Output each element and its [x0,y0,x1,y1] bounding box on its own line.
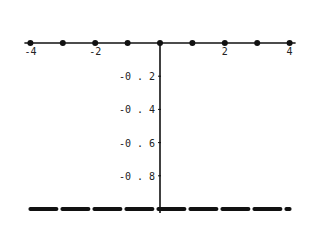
tick-labels: -0 . 2-0 . 4-0 . 6-0 . 8-4-224 [24,46,292,182]
y-tick-label: -0 . 8 [119,171,155,182]
chart-canvas: -0 . 2-0 . 4-0 . 6-0 . 8-4-224 [0,0,319,228]
x-tick-label: 2 [222,46,228,57]
data-point [157,40,163,46]
data-point [60,40,66,46]
x-tick-label: -4 [24,46,36,57]
data-point [189,40,195,46]
data-point [125,40,131,46]
y-tick-label: -0 . 2 [119,71,155,82]
y-tick-label: -0 . 4 [119,104,155,115]
y-tick-label: -0 . 6 [119,138,155,149]
axes [24,43,295,213]
x-tick-label: 4 [287,46,293,57]
x-tick-label: -2 [89,46,101,57]
data-point [254,40,260,46]
